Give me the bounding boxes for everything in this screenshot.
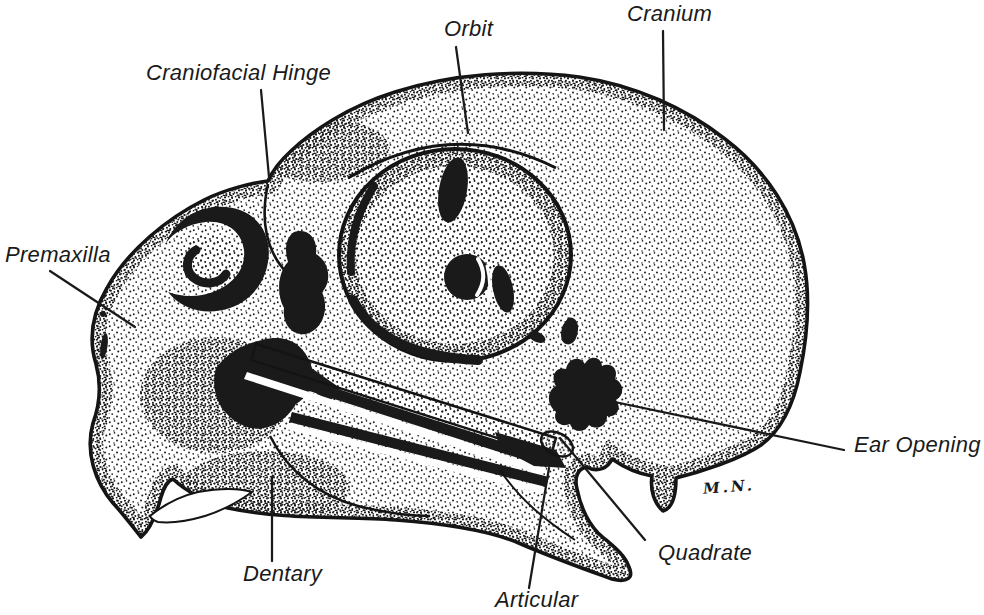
label-cranium: Cranium — [627, 3, 712, 25]
bird-skull-anatomy-figure: Cranium Orbit Craniofacial Hinge Premaxi… — [0, 0, 984, 615]
orbit-socket — [339, 144, 571, 361]
label-craniofacial-hinge: Craniofacial Hinge — [146, 62, 331, 84]
craniofacial-hinge-leader-line — [261, 90, 269, 177]
skull-illustration — [0, 0, 984, 615]
label-premaxilla: Premaxilla — [5, 244, 111, 266]
artist-signature: M.N. — [702, 476, 755, 498]
label-dentary: Dentary — [243, 563, 322, 585]
label-articular: Articular — [495, 589, 578, 611]
label-orbit: Orbit — [444, 18, 493, 40]
beak-pore — [100, 311, 106, 317]
label-quadrate: Quadrate — [658, 542, 752, 564]
cranium-leader-line — [663, 31, 664, 130]
label-ear-opening: Ear Opening — [854, 434, 981, 456]
